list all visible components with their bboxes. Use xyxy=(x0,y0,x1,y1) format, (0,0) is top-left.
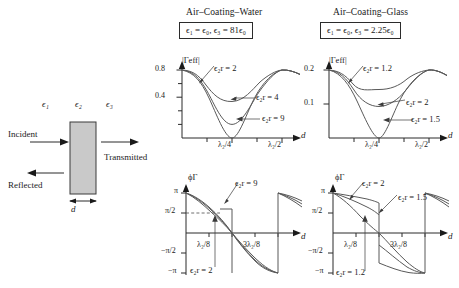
figure-root: Air–Coating–Water ϵ₁ = ϵ₀, ϵ₃ = 81ϵ₀ Air… xyxy=(0,0,459,288)
panel-title-glass: Air–Coating–Glass xyxy=(333,7,408,17)
ylabel-mag-water: |Γeff| xyxy=(182,55,200,65)
reflected-arrow xyxy=(27,170,64,177)
transmitted-arrow xyxy=(101,139,139,146)
chart-mag-water xyxy=(168,56,308,146)
eps-box-water: ϵ₁ = ϵ₀, ϵ₃ = 81ϵ₀ xyxy=(179,22,253,39)
incident-label: Incident xyxy=(8,129,38,139)
ytick-phase-w-pi: π xyxy=(174,186,178,195)
ytick-mag-water-04: 0.4 xyxy=(155,91,165,100)
eps1-label: ϵ₁ xyxy=(42,99,49,109)
curve-phase-g-eps2b xyxy=(379,233,425,273)
curve-eps2r-2 xyxy=(182,70,300,102)
annot-phase-g-s1: ϵ₂r = 1.5 xyxy=(398,192,427,202)
panel-title-water: Air–Coating–Water xyxy=(186,7,262,17)
annot-phase-g-s0: ϵ₂r = 2 xyxy=(362,178,385,188)
xtick-mag-glass-l2: λ₂/2 xyxy=(415,140,428,149)
coating-slab xyxy=(70,122,96,194)
ytick-phase-g-pi: π xyxy=(321,186,325,195)
annot-mag-glass-s2: ϵ₂r = 1.5 xyxy=(411,114,440,124)
annot-mag-glass-s1: ϵ₂r = 2 xyxy=(406,97,429,107)
xtick-mag-water-l4: λ₂/4 xyxy=(218,140,231,149)
annot-phase-w-s0: ϵ₂r = 9 xyxy=(235,178,258,188)
ylabel-phase-water: ϕΓ xyxy=(188,172,197,182)
ylabel-phase-glass: ϕΓ xyxy=(335,172,344,182)
xlabel-phase-water: d xyxy=(301,231,306,241)
ytick-phase-w-pi2: π/2 xyxy=(165,206,175,215)
curve-phase-g-eps12 xyxy=(333,193,379,233)
ytick-phase-g-pi2: π/2 xyxy=(312,206,322,215)
annot-mag-glass-s0: ϵ₂r = 1.2 xyxy=(363,63,392,73)
ylabel-mag-glass: |Γeff| xyxy=(329,55,347,65)
xtick-phase-w-3l8: 3λ₂/8 xyxy=(243,240,260,249)
thickness-measure xyxy=(69,198,97,203)
xlabel-mag-water: d xyxy=(301,130,306,140)
tail-g-c xyxy=(425,193,449,207)
curve-phase-g-eps15b xyxy=(379,245,425,273)
annot-phase-w-s1: ϵ₂r = 2 xyxy=(190,265,213,275)
annot-mag-water-s1: ϵ₂r = 4 xyxy=(256,92,279,102)
ytick-mag-glass-01: 0.1 xyxy=(304,98,314,107)
ytick-phase-g-npi2: −π/2 xyxy=(308,246,323,255)
eps2-label: ϵ₂ xyxy=(75,99,82,109)
eps-box-glass: ϵ₁ = ϵ₀, ϵ₃ = 2.25ϵ₀ xyxy=(320,22,401,39)
xtick-mag-water-l2: λ₂/2 xyxy=(268,140,281,149)
ytick-mag-water-08: 0.8 xyxy=(155,64,165,73)
xlabel-mag-glass: d xyxy=(448,130,453,140)
xtick-mag-glass-l4: λ₂/4 xyxy=(365,140,378,149)
annot-phase-g-s2: ϵ₂r = 1.2 xyxy=(336,267,365,277)
thickness-label: d xyxy=(71,204,76,214)
eps3-label: ϵ₃ xyxy=(106,99,113,109)
xtick-phase-g-3l8: 3λ₂/8 xyxy=(390,240,407,249)
tail-c xyxy=(278,193,302,207)
ytick-phase-g-npi: −π xyxy=(315,266,324,275)
xtick-phase-g-l8: λ₂/8 xyxy=(344,240,357,249)
chart-phase-water xyxy=(168,175,308,283)
transmitted-label: Transmitted xyxy=(104,152,147,162)
xlabel-phase-glass: d xyxy=(448,231,453,241)
annot-mag-water-s0: ϵ₂r = 2 xyxy=(214,63,237,73)
xtick-phase-w-l8: λ₂/8 xyxy=(197,240,210,249)
ytick-phase-w-npi2: −π/2 xyxy=(161,246,176,255)
ytick-mag-glass-02: 0.2 xyxy=(304,64,314,73)
reflected-label: Reflected xyxy=(8,180,42,190)
annot-mag-water-s2: ϵ₂r = 9 xyxy=(262,113,285,123)
ytick-phase-w-npi: −π xyxy=(168,266,177,275)
incident-arrow xyxy=(30,139,69,146)
